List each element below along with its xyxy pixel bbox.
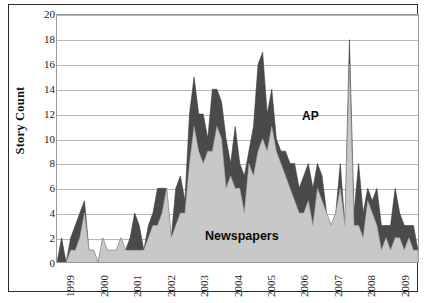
- y-tick-label: 18: [21, 33, 55, 45]
- x-tick-label: 2003: [198, 265, 210, 303]
- y-tick-label: 16: [21, 58, 55, 70]
- y-tick-label: 8: [21, 157, 55, 169]
- chart-figure: Story Count 20181614121086420 1999200020…: [0, 0, 426, 303]
- x-tick-label: 2009: [399, 265, 411, 303]
- series-label-ap: AP: [302, 109, 319, 123]
- y-tick-label: 6: [21, 182, 55, 194]
- x-tick-label: 2000: [98, 265, 110, 303]
- y-tick-label: 20: [21, 8, 55, 20]
- series-label-newspapers: Newspapers: [205, 229, 279, 243]
- x-tick-label: 2005: [265, 265, 277, 303]
- x-axis-tick-labels: 1999200020012002200320042005200620072008…: [56, 264, 419, 303]
- x-tick-label: 2006: [298, 265, 310, 303]
- x-tick-label: 2002: [165, 265, 177, 303]
- y-tick-label: 0: [21, 257, 55, 269]
- y-tick-label: 12: [21, 108, 55, 120]
- plot-area: [56, 14, 419, 263]
- y-axis-tick-labels: 20181614121086420: [21, 5, 55, 293]
- y-tick-label: 4: [21, 207, 55, 219]
- x-tick-label: 2008: [365, 265, 377, 303]
- y-tick-label: 14: [21, 83, 55, 95]
- x-tick-label: 2004: [232, 265, 244, 303]
- y-tick-label: 2: [21, 232, 55, 244]
- x-tick-label: 2007: [332, 265, 344, 303]
- stacked-area-series: [57, 15, 418, 263]
- x-tick-label: 2001: [131, 265, 143, 303]
- chart-frame-border: Story Count 20181614121086420 1999200020…: [8, 4, 418, 292]
- x-tick-label: 1999: [64, 265, 76, 303]
- y-tick-label: 10: [21, 133, 55, 145]
